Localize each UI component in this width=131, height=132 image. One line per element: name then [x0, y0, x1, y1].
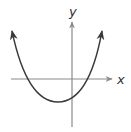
y-axis-label: y: [68, 4, 77, 19]
parabola-left-arm: [12, 31, 58, 102]
parabola-right-arm: [58, 31, 102, 102]
x-axis-label: x: [116, 72, 125, 87]
parabola-graph: y x: [0, 0, 131, 132]
